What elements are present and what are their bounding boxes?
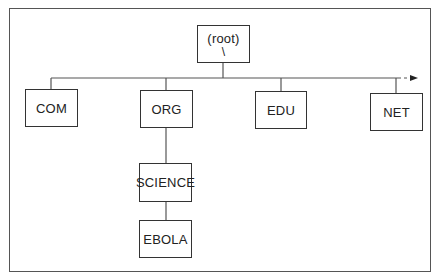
node-label: SCIENCE <box>136 175 195 190</box>
node-root: (root) \ <box>197 25 250 63</box>
node-label: COM <box>36 101 67 116</box>
node-label: ORG <box>151 102 181 117</box>
arrow-right-icon <box>410 75 418 81</box>
node-net: NET <box>370 93 423 131</box>
node-ebola: EBOLA <box>139 220 192 258</box>
root-sublabel: \ <box>222 46 226 58</box>
node-label: EBOLA <box>143 232 187 247</box>
node-label: NET <box>383 105 410 120</box>
node-label: EDU <box>267 103 295 118</box>
node-org: ORG <box>140 90 193 128</box>
node-science: SCIENCE <box>139 163 192 202</box>
root-label: (root) <box>207 31 239 46</box>
node-com: COM <box>25 89 78 127</box>
node-edu: EDU <box>255 91 307 129</box>
